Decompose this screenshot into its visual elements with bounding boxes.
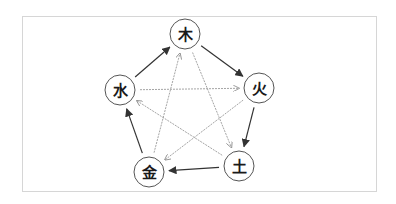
- edge-water-to-wood: [135, 47, 170, 77]
- node-label: 土: [232, 158, 247, 176]
- node-earth: 土: [224, 151, 254, 181]
- node-wood: 木: [170, 19, 200, 49]
- edge-metal-to-water: [127, 109, 143, 153]
- edge-earth-to-water: [137, 101, 222, 155]
- edge-metal-to-wood: [154, 53, 180, 152]
- node-label: 金: [141, 164, 158, 182]
- edge-fire-to-metal: [165, 100, 243, 160]
- edge-water-to-fire: [140, 88, 239, 89]
- node-water: 水: [105, 75, 135, 105]
- node-fire: 火: [244, 73, 274, 103]
- node-label: 水: [113, 82, 129, 100]
- node-metal: 金: [134, 157, 164, 187]
- five-elements-diagram: 木火土金水: [0, 0, 396, 204]
- edge-wood-to-earth: [193, 53, 232, 148]
- edge-earth-to-metal: [169, 167, 219, 170]
- node-label: 火: [252, 80, 268, 98]
- edge-wood-to-fire: [201, 46, 243, 76]
- node-label: 木: [177, 26, 194, 44]
- edge-fire-to-earth: [244, 107, 254, 146]
